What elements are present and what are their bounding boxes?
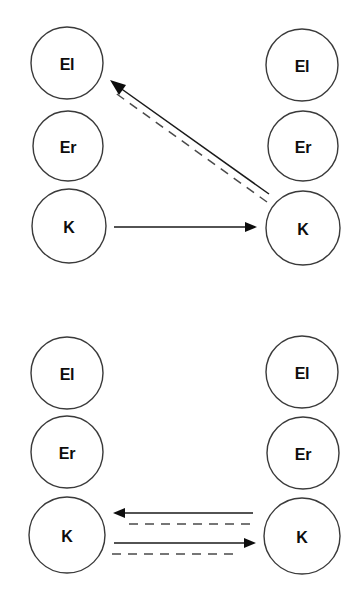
node-bottom-right-el[interactable]: El	[266, 336, 338, 408]
arrow-head-icon	[244, 538, 256, 548]
panel-top-edges	[110, 80, 269, 232]
top-right-column: El Er K	[266, 29, 340, 265]
edge-top-k-to-el-dashed	[114, 92, 267, 202]
node-label: K	[61, 528, 73, 545]
node-bottom-right-er[interactable]: Er	[267, 417, 339, 489]
node-label: K	[297, 221, 309, 238]
node-top-left-er[interactable]: Er	[33, 111, 103, 181]
node-label: Er	[59, 445, 75, 462]
node-top-left-el[interactable]: El	[31, 27, 103, 99]
edge-bottom-left-to-right-solid	[114, 538, 256, 548]
node-top-right-k[interactable]: K	[266, 191, 340, 265]
panel-top-svg: El Er K El Er	[0, 0, 359, 300]
node-top-left-k[interactable]: K	[32, 189, 106, 263]
bottom-right-column: El Er K	[264, 336, 340, 574]
panel-top: El Er K El Er	[0, 0, 359, 300]
node-label: El	[60, 366, 75, 383]
arrow-head-icon	[113, 508, 125, 518]
arrow-head-icon	[110, 80, 126, 95]
bottom-left-column: El Er K	[29, 337, 105, 573]
node-label: Er	[60, 139, 76, 156]
node-bottom-left-k[interactable]: K	[29, 497, 105, 573]
edge-bottom-right-to-left-solid	[113, 508, 253, 518]
diagram-canvas: El Er K El Er	[0, 0, 359, 593]
node-label: El	[295, 58, 310, 75]
panel-bottom-edges	[112, 508, 256, 554]
edge-top-k-to-el-solid	[110, 80, 269, 194]
edge-top-k-to-k-solid	[114, 222, 257, 232]
node-label: Er	[295, 139, 311, 156]
node-bottom-left-el[interactable]: El	[31, 337, 103, 409]
panel-bottom-content: El Er K El Er	[0, 300, 359, 593]
node-bottom-left-er[interactable]: Er	[31, 416, 103, 488]
panel-bottom: El Er K El Er	[0, 300, 359, 593]
arrow-head-icon	[245, 222, 257, 232]
node-label: K	[296, 529, 308, 546]
node-top-right-er[interactable]: Er	[268, 111, 338, 181]
node-label: El	[295, 365, 310, 382]
node-label: Er	[295, 446, 311, 463]
top-left-column: El Er K	[31, 27, 106, 263]
node-label: K	[63, 219, 75, 236]
node-label: El	[60, 56, 75, 73]
edge-line	[116, 85, 269, 194]
node-bottom-right-k[interactable]: K	[264, 498, 340, 574]
node-top-right-el[interactable]: El	[266, 29, 338, 101]
